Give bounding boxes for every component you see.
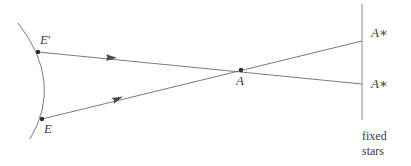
- stellar-parallax-diagram: E′ E A A∗ A∗ fixed stars: [0, 0, 411, 166]
- label-stars: stars: [362, 145, 384, 157]
- label-a-star-bottom-letter: A: [371, 76, 379, 91]
- sightline-from-e-prime: [38, 52, 362, 84]
- diagram-canvas: [0, 0, 411, 166]
- label-fixed: fixed: [362, 130, 387, 142]
- label-e-prime-letter: E: [40, 32, 48, 47]
- label-e-prime: E′: [40, 33, 51, 46]
- label-a-star-bottom-mark: ∗: [379, 76, 388, 91]
- direction-arrow-lower-icon: [112, 97, 124, 105]
- label-e-prime-mark: ′: [48, 32, 51, 47]
- label-a-star-top-letter: A: [371, 25, 379, 40]
- label-a: A: [236, 74, 244, 87]
- label-a-star-top: A∗: [371, 26, 388, 39]
- point-e-prime-dot: [36, 50, 40, 54]
- sightline-from-e: [42, 41, 362, 119]
- label-a-star-bottom: A∗: [371, 77, 388, 90]
- label-a-star-top-mark: ∗: [379, 25, 388, 40]
- point-a-dot: [239, 68, 243, 72]
- label-e: E: [44, 122, 52, 135]
